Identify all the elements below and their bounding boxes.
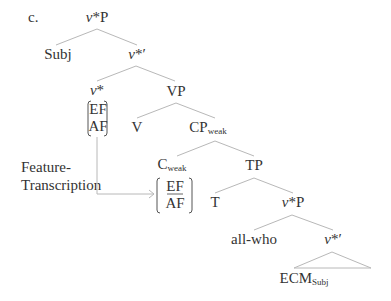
edge-tp-t — [215, 178, 254, 193]
node-ecm-subj: ECMSubj — [279, 270, 328, 287]
edge-vstarbar-vstar — [97, 66, 136, 81]
edge-vstarp-vstarbar-lower — [292, 215, 333, 230]
syntax-tree-diagram: c. v*P Subj v*′ v* EF AF VP V CPweak Cwe… — [0, 0, 391, 301]
edge-vp-v — [137, 103, 176, 118]
feature-transcription-arrow — [97, 137, 154, 198]
node-v: V — [132, 119, 143, 135]
edge-cp-c — [177, 141, 215, 156]
feature-ef: EF — [166, 178, 184, 194]
node-vstar-bar-lower: v*′ — [324, 231, 341, 247]
arrow-path — [97, 137, 154, 194]
edge-vstarp-subj — [56, 29, 97, 45]
node-all-who: all-who — [231, 231, 277, 247]
edge-tp-vstarp — [254, 178, 293, 193]
right-bracket — [189, 178, 192, 213]
example-label: c. — [28, 9, 38, 25]
node-t: T — [210, 194, 219, 210]
edge-vstarp-allwho — [254, 215, 292, 230]
node-vstar: v* — [90, 82, 104, 98]
node-cp-weak: CPweak — [189, 119, 227, 136]
annotation-line2: Transcription — [21, 177, 102, 193]
edge-vp-cp — [176, 103, 215, 118]
node-tp: TP — [245, 157, 263, 173]
node-vstar-bar: v*′ — [128, 46, 145, 62]
feature-af: AF — [88, 118, 107, 134]
feature-ef: EF — [89, 101, 107, 117]
node-c-weak: Cweak — [157, 156, 187, 173]
annotation-line1: Feature- — [21, 159, 71, 175]
node-subj: Subj — [44, 46, 72, 62]
edge-cp-tp — [215, 141, 254, 156]
left-bracket — [157, 178, 160, 213]
node-vstar-p-lower: v*P — [282, 194, 305, 210]
feature-af: AF — [165, 195, 184, 211]
edge-vstarp-vstarbar — [97, 29, 137, 45]
vstar-feature-matrix: EF AF — [88, 101, 108, 136]
triangle-abbreviation — [294, 252, 371, 268]
edge-vstarbar-vp — [136, 66, 175, 81]
node-vp: VP — [166, 83, 185, 99]
c-feature-matrix: EF AF — [157, 178, 192, 213]
node-vstar-p: v*P — [86, 9, 109, 25]
